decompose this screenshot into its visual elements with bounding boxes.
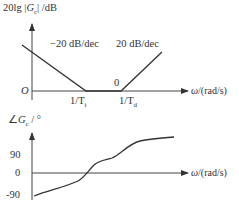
phase-x-label: ω/(rad/s): [191, 168, 227, 178]
phase-ylabel-unit: / °: [31, 114, 41, 125]
slope-left-label: −20 dB/dec: [50, 39, 99, 50]
abs-close: |: [37, 2, 39, 13]
ylabel-unit: /dB: [42, 2, 57, 13]
slope-right-label: 20 dB/dec: [116, 39, 159, 50]
break-frequency-1: 1/Ti: [70, 96, 87, 109]
angle-symbol: ∠: [8, 114, 18, 125]
break-2-sub: d: [134, 101, 138, 109]
phase-xlabel-var: ω: [191, 167, 198, 178]
phase-ylabel-var: G: [18, 114, 26, 125]
break-frequency-2: 1/Td: [119, 96, 137, 109]
phase-ylabel-sub: c: [26, 120, 29, 128]
phase-tick-minus-90: -90: [6, 190, 20, 201]
ylabel-var: G: [26, 2, 34, 13]
phase-xlabel-unit: /(rad/s): [198, 167, 227, 178]
magnitude-y-label: 20lg |Gc| /dB: [3, 3, 57, 16]
phase-curve: [34, 137, 174, 196]
origin-label: O: [21, 86, 29, 97]
xlabel-var: ω: [191, 85, 198, 96]
phase-y-label: ∠Gc / °: [8, 115, 41, 128]
flat-segment-label: 0: [114, 78, 119, 89]
phase-tick-0: 0: [15, 168, 20, 179]
xlabel-unit: /(rad/s): [198, 85, 227, 96]
magnitude-x-label: ω/(rad/s): [191, 86, 227, 96]
break-1-text: 1/T: [70, 95, 85, 106]
phase-tick-90: 90: [10, 150, 21, 161]
ylabel-prefix: 20lg: [3, 2, 22, 13]
break-1-sub: i: [85, 101, 87, 109]
break-2-text: 1/T: [119, 95, 134, 106]
magnitude-asymptote: [22, 45, 162, 91]
